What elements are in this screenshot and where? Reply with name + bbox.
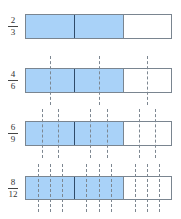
dashed-partition-line bbox=[99, 56, 100, 105]
dashed-partition-line bbox=[50, 56, 51, 105]
dashed-partition-line bbox=[111, 164, 112, 212]
third-divider-line bbox=[123, 15, 124, 38]
dashed-partition-line bbox=[147, 164, 148, 212]
dashed-partition-line bbox=[107, 109, 108, 158]
third-divider-line bbox=[123, 69, 124, 92]
third-divider-line bbox=[123, 177, 124, 199]
denominator: 3 bbox=[5, 28, 21, 37]
denominator: 9 bbox=[5, 135, 21, 144]
denominator: 12 bbox=[5, 190, 21, 199]
dashed-partition-line bbox=[42, 109, 43, 158]
denominator: 6 bbox=[5, 82, 21, 91]
dashed-partition-line bbox=[99, 164, 100, 212]
third-divider-line bbox=[74, 177, 75, 199]
dashed-partition-line bbox=[58, 109, 59, 158]
numerator: 6 bbox=[5, 123, 21, 132]
third-divider-line bbox=[74, 69, 75, 92]
fraction-label: 6 9 bbox=[5, 123, 21, 144]
fraction-label: 4 6 bbox=[5, 70, 21, 91]
dashed-partition-line bbox=[50, 164, 51, 212]
dashed-partition-line bbox=[147, 56, 148, 105]
dashed-partition-line bbox=[38, 164, 39, 212]
third-divider-line bbox=[123, 122, 124, 145]
fraction-bar-model bbox=[25, 121, 172, 146]
dashed-partition-line bbox=[90, 109, 91, 158]
fraction-label: 2 3 bbox=[5, 16, 21, 37]
dashed-partition-line bbox=[86, 164, 87, 212]
third-divider-line bbox=[74, 15, 75, 38]
dashed-partition-line bbox=[62, 164, 63, 212]
numerator: 4 bbox=[5, 70, 21, 79]
fraction-label: 8 12 bbox=[5, 178, 21, 199]
numerator: 8 bbox=[5, 178, 21, 187]
numerator: 2 bbox=[5, 16, 21, 25]
third-divider-line bbox=[74, 122, 75, 145]
dashed-partition-line bbox=[155, 109, 156, 158]
dashed-partition-line bbox=[159, 164, 160, 212]
dashed-partition-line bbox=[139, 109, 140, 158]
fraction-bar-model bbox=[25, 14, 172, 39]
dashed-partition-line bbox=[135, 164, 136, 212]
